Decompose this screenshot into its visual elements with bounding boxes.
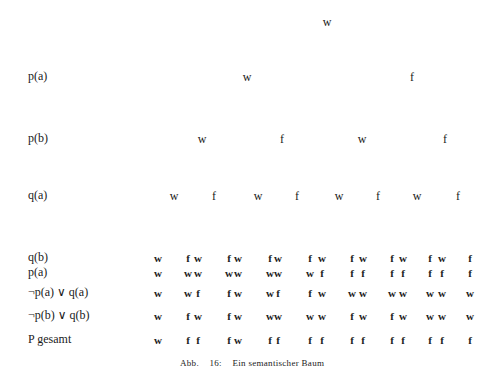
truth-value-cell: f [440, 335, 444, 346]
truth-value-cell: f [186, 311, 190, 322]
row-label: ¬p(b) ∨ q(b) [28, 308, 90, 323]
truth-value-cell: f [440, 268, 444, 279]
truth-value-cell: f [227, 253, 231, 264]
tree-node: w [243, 71, 252, 83]
truth-value-cell: w [388, 288, 396, 299]
truth-value-cell: f [390, 253, 394, 264]
truth-value-cell: f [227, 335, 231, 346]
figure-caption: Abb. 16: Ein semantischer Baum [180, 358, 332, 368]
truth-value-cell: w [399, 288, 407, 299]
truth-value-cell: f [227, 311, 231, 322]
truth-value-cell: w [359, 288, 367, 299]
truth-value-cell: f [320, 268, 324, 279]
truth-value-cell: w [266, 268, 274, 279]
truth-value-cell: w [306, 311, 314, 322]
truth-value-cell: f [320, 335, 324, 346]
truth-value-cell: w [154, 311, 162, 322]
truth-value-cell: w [318, 311, 326, 322]
truth-value-cell: f [186, 253, 190, 264]
truth-value-cell: f [196, 288, 200, 299]
truth-value-cell: f [361, 268, 365, 279]
level-label: p(a) [28, 69, 47, 84]
tree-node: w [254, 190, 263, 202]
truth-value-cell: w [359, 311, 367, 322]
truth-value-cell: f [390, 268, 394, 279]
truth-value-cell: w [194, 311, 202, 322]
truth-value-cell: w [466, 288, 474, 299]
row-label: P gesamt [28, 332, 71, 347]
truth-value-cell: w [266, 288, 274, 299]
tree-node: f [280, 133, 284, 145]
tree-node: w [335, 190, 344, 202]
tree-node: f [456, 190, 460, 202]
truth-value-cell: f [468, 268, 472, 279]
caption-abbr: Abb. [180, 358, 199, 368]
truth-value-cell: w [399, 253, 407, 264]
caption-number: 16: [210, 358, 222, 368]
row-label: ¬p(a) ∨ q(a) [28, 285, 88, 300]
truth-value-cell: w [359, 253, 367, 264]
truth-value-cell: w [234, 288, 242, 299]
tree-node: w [323, 16, 332, 28]
truth-value-cell: w [399, 311, 407, 322]
truth-value-cell: f [276, 288, 280, 299]
truth-value-cell: w [154, 253, 162, 264]
truth-value-cell: f [268, 253, 272, 264]
truth-value-cell: w [318, 288, 326, 299]
truth-value-cell: w [154, 268, 162, 279]
truth-value-cell: w [154, 335, 162, 346]
tree-node: w [198, 133, 207, 145]
tree-node: f [443, 133, 447, 145]
truth-value-cell: f [361, 335, 365, 346]
row-label: p(a) [28, 265, 47, 280]
truth-value-cell: w [234, 253, 242, 264]
truth-value-cell: w [184, 288, 192, 299]
truth-value-cell: f [390, 311, 394, 322]
truth-value-cell: f [350, 253, 354, 264]
truth-value-cell: w [154, 288, 162, 299]
truth-value-cell: f [350, 335, 354, 346]
level-label: q(a) [28, 188, 47, 203]
truth-value-cell: w [184, 268, 192, 279]
truth-value-cell: w [274, 311, 282, 322]
truth-value-cell: w [438, 288, 446, 299]
truth-value-cell: f [468, 335, 472, 346]
truth-value-cell: f [390, 335, 394, 346]
truth-value-cell: f [428, 268, 432, 279]
tree-node: f [410, 71, 414, 83]
tree-node: w [358, 133, 367, 145]
truth-value-cell: w [274, 268, 282, 279]
tree-node: w [413, 190, 422, 202]
truth-value-cell: w [194, 253, 202, 264]
truth-value-cell: w [234, 335, 242, 346]
truth-value-cell: f [350, 268, 354, 279]
truth-value-cell: w [438, 253, 446, 264]
truth-value-cell: w [348, 288, 356, 299]
truth-value-cell: f [468, 253, 472, 264]
caption-title: Ein semantischer Baum [232, 358, 324, 368]
truth-value-cell: f [308, 253, 312, 264]
truth-value-cell: w [234, 268, 242, 279]
truth-value-cell: f [308, 335, 312, 346]
truth-value-cell: w [266, 311, 274, 322]
truth-value-cell: f [186, 335, 190, 346]
truth-value-cell: f [196, 335, 200, 346]
truth-value-cell: w [466, 311, 474, 322]
truth-value-cell: w [194, 268, 202, 279]
truth-value-cell: f [268, 335, 272, 346]
tree-node: f [212, 190, 216, 202]
truth-value-cell: w [438, 311, 446, 322]
truth-value-cell: f [401, 335, 405, 346]
tree-node: w [170, 190, 179, 202]
truth-value-cell: w [225, 268, 233, 279]
tree-node: f [295, 190, 299, 202]
truth-value-cell: f [401, 268, 405, 279]
truth-value-cell: w [234, 311, 242, 322]
level-label: p(b) [28, 131, 48, 146]
row-label: q(b) [28, 250, 48, 265]
truth-value-cell: f [428, 335, 432, 346]
truth-value-cell: w [318, 253, 326, 264]
truth-value-cell: f [308, 288, 312, 299]
truth-value-cell: f [276, 335, 280, 346]
tree-node: f [376, 190, 380, 202]
